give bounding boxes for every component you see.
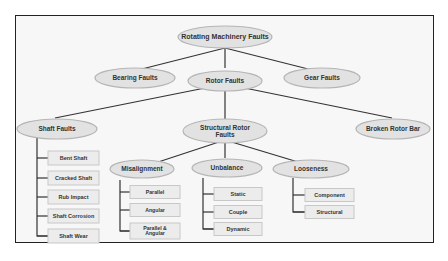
shaft-fault-4-label: Shaft Wear xyxy=(59,233,88,239)
looseness-0-label: Component xyxy=(314,192,345,198)
root-node-label: Rotating Machinery Faults xyxy=(181,33,269,41)
misalignment-0-label: Parallel xyxy=(146,189,165,195)
misalignment-1-label: Angular xyxy=(145,207,165,213)
unbalance-node-label: Unbalance xyxy=(211,164,244,171)
bearing-faults-node-label: Bearing Faults xyxy=(112,74,158,82)
connector-line xyxy=(55,84,225,118)
unbalance-2-label: Dynamic xyxy=(227,226,250,232)
connector-line xyxy=(225,84,392,118)
misalignment-node-label: Misalignment xyxy=(121,165,163,173)
misalignment-2-label: Parallel &Angular xyxy=(143,225,167,237)
shaft-fault-3-label: Shaft Corrosion xyxy=(53,213,95,219)
looseness-1-label: Structural xyxy=(317,209,343,215)
shaft-faults-node-label: Shaft Faults xyxy=(38,125,76,132)
unbalance-1-label: Couple xyxy=(229,209,248,215)
looseness-node-label: Looseness xyxy=(294,165,328,172)
rotor-faults-node-label: Rotor Faults xyxy=(206,77,245,84)
shaft-fault-2-label: Rub Impact xyxy=(59,194,89,200)
connector-line xyxy=(37,136,48,236)
shaft-fault-1-label: Cracked Shaft xyxy=(55,175,92,181)
broken-rotor-bar-node-label: Broken Rotor Bar xyxy=(366,125,421,132)
shaft-fault-0-label: Bent Shaft xyxy=(60,155,88,161)
unbalance-0-label: Static xyxy=(231,191,246,197)
connector-line xyxy=(120,180,130,231)
gear-faults-node-label: Gear Faults xyxy=(304,74,340,81)
connector-line xyxy=(203,178,214,229)
fault-tree-diagram: Rotating Machinery FaultsBearing FaultsR… xyxy=(0,0,448,261)
